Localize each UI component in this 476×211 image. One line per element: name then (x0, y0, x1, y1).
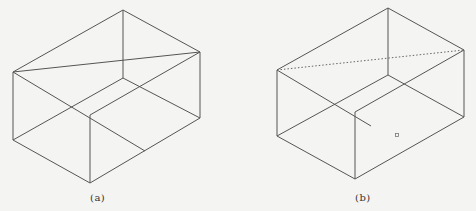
edge (13, 78, 123, 140)
edge (388, 75, 464, 117)
edge (123, 78, 200, 118)
edge (388, 8, 464, 50)
edge (355, 117, 464, 179)
edge (277, 70, 371, 126)
edge (277, 136, 355, 179)
edge (13, 52, 200, 72)
diagram-canvas (0, 0, 476, 211)
edge (13, 10, 123, 72)
box-wireframe-b (277, 8, 464, 179)
edge (123, 10, 200, 52)
box-wireframe-a (13, 10, 200, 183)
edge (355, 50, 464, 112)
caption-a: (a) (90, 192, 105, 203)
edge (13, 140, 90, 183)
caption-b: (b) (355, 192, 371, 203)
point-marker-icon (396, 134, 399, 137)
dotted-edge (277, 50, 464, 70)
edge (277, 8, 388, 70)
edge (277, 75, 388, 136)
edge (90, 52, 200, 115)
edge (13, 72, 145, 151)
